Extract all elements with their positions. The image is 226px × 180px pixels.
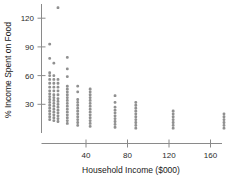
data-point [89,122,92,125]
data-point [114,123,117,126]
data-point [89,125,92,128]
data-point [89,99,92,102]
data-point [48,74,51,77]
data-point [57,90,60,93]
data-point [57,117,60,120]
data-point [89,102,92,105]
data-point [48,118,51,121]
data-point [48,43,51,46]
data-point [89,93,92,96]
data-point [134,112,137,115]
data-point [66,99,69,102]
data-point [52,113,55,116]
data-point [223,118,226,121]
data-point [114,101,117,104]
data-point [134,127,137,130]
data-point [66,105,69,108]
data-point [114,106,117,109]
y-axis-title: % Income Spent on Food [3,22,13,118]
data-point [114,126,117,129]
data-point [223,124,226,127]
chart-canvas: 306090120 4080120160 Household Income ($… [0,0,226,180]
data-point [57,86,60,89]
data-point [57,97,60,100]
data-point [52,116,55,119]
data-point [66,116,69,119]
data-point [48,110,51,113]
data-point [57,82,60,85]
data-point [57,112,60,115]
data-point [76,85,79,88]
data-point [76,124,79,127]
data-point [134,107,137,110]
data-point [48,98,51,101]
data-point [76,112,79,115]
data-point [48,86,51,89]
data-point [172,127,175,130]
data-point [52,102,55,105]
data-point [76,104,79,107]
data-point [48,57,51,60]
data-point [48,101,51,104]
data-point [66,68,69,71]
data-point [89,96,92,99]
y-tick-label: 30 [25,100,34,109]
data-point [89,88,92,91]
data-point [66,102,69,105]
data-point [52,93,55,96]
data-point [66,75,69,78]
data-point [76,110,79,113]
data-point [57,120,60,123]
data-point [57,109,60,112]
data-point [57,103,60,106]
data-point [48,115,51,118]
data-point [89,119,92,122]
data-point [52,108,55,111]
data-point [76,118,79,121]
data-point [52,90,55,93]
x-tick-label: 80 [123,151,132,160]
y-tick-label: 120 [21,14,35,23]
data-point [57,114,60,117]
x-axis-ticks: 4080120160 [82,140,218,161]
data-point [76,98,79,101]
data-point [57,93,60,96]
data-point [52,62,55,65]
data-point [223,112,226,115]
data-point [57,100,60,103]
data-point [52,78,55,81]
x-tick-label: 120 [162,151,176,160]
data-point [76,90,79,93]
data-point [172,118,175,121]
data-point [89,105,92,108]
data-point [134,101,137,104]
scatter-chart-figure: 306090120 4080120160 Household Income ($… [0,0,226,180]
data-point [66,119,69,122]
data-point [114,114,117,117]
data-point [66,96,69,99]
data-point [57,106,60,109]
data-point [76,107,79,110]
x-tick-label: 160 [204,151,218,160]
data-point [52,86,55,89]
data-point [223,127,226,130]
data-point [134,110,137,113]
data-point [66,56,69,59]
data-point [114,117,117,120]
data-point [114,109,117,112]
data-point [48,107,51,110]
data-point [48,104,51,107]
data-point [66,108,69,111]
y-tick-label: 90 [25,43,34,52]
data-point [66,113,69,116]
data-point [134,118,137,121]
data-point [134,124,137,127]
data-point [48,90,51,93]
data-point [172,112,175,115]
data-point [114,112,117,115]
data-point [48,92,51,95]
data-point [89,116,92,119]
data-point [76,121,79,124]
data-point [134,121,137,124]
x-axis: 4080120160 [42,140,223,161]
